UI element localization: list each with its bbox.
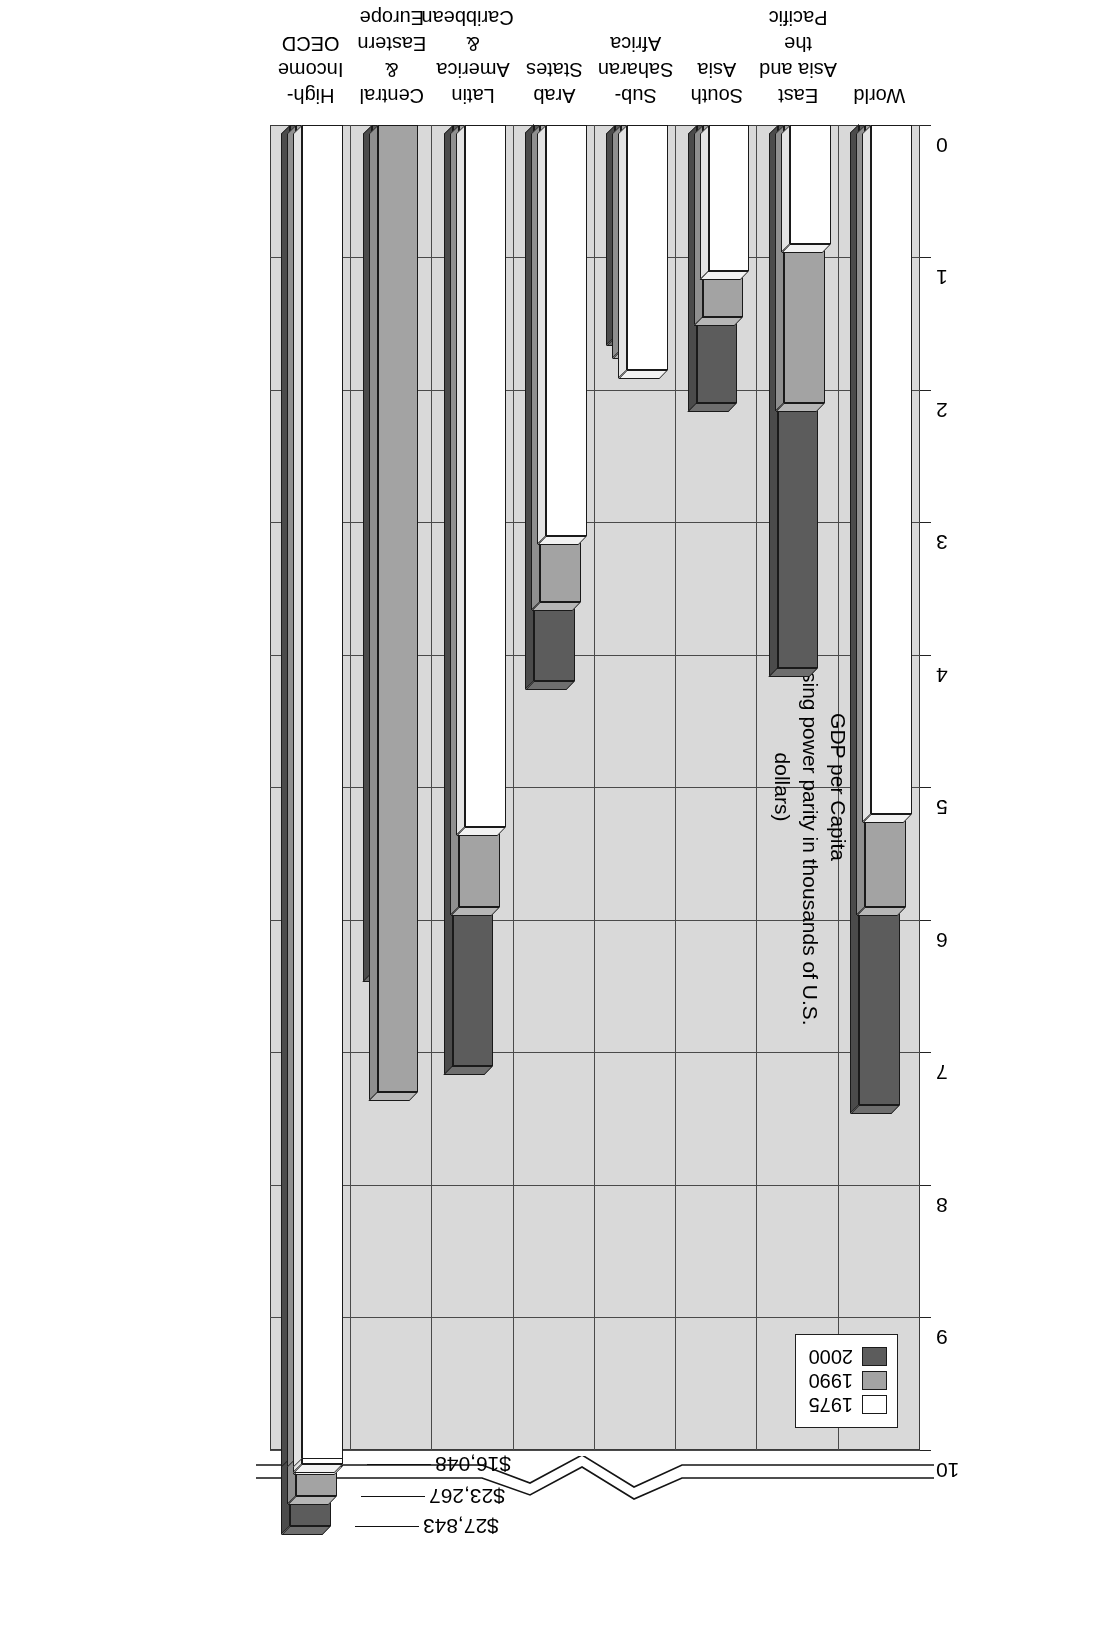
category-label: High-Income OECD xyxy=(270,31,351,109)
bar-top-cap xyxy=(444,1066,493,1075)
value-axis-tick xyxy=(920,788,931,789)
value-axis-tick-label: 4 xyxy=(936,666,948,687)
value-axis-tick xyxy=(920,655,931,656)
bar-face xyxy=(378,125,419,1092)
value-axis-tick-label: 3 xyxy=(936,533,948,554)
value-axis-tick-label: 6 xyxy=(936,931,948,952)
bar-top-cap xyxy=(775,403,824,412)
value-axis-tick-label: 10 xyxy=(936,1461,959,1482)
legend-swatch-1990 xyxy=(862,1372,887,1391)
value-axis-tick xyxy=(920,1053,931,1054)
bar-side-cap xyxy=(294,125,303,1475)
bar-side-cap xyxy=(781,125,790,253)
category-label: World xyxy=(839,83,920,109)
callout-leader-line xyxy=(355,1526,419,1527)
bar-top-cap xyxy=(619,370,668,379)
value-axis-tick-label: 2 xyxy=(936,401,948,422)
value-axis-tick-label: 1 xyxy=(936,268,948,289)
bar-1975 xyxy=(546,125,587,536)
bar-side-cap xyxy=(369,125,378,1101)
category-label: Arab States xyxy=(514,57,595,109)
legend-label: 1990 xyxy=(809,1371,854,1391)
value-axis-tick xyxy=(920,1450,931,1451)
bar-side-cap xyxy=(537,125,546,544)
bar-top-cap xyxy=(850,1106,899,1115)
value-callout-label: $27,843 xyxy=(423,1516,527,1537)
value-axis-tick xyxy=(920,523,931,524)
legend: 197519902000 xyxy=(796,1334,899,1428)
bar-1975 xyxy=(628,125,669,370)
value-axis-tick xyxy=(920,258,931,259)
bar-1975 xyxy=(790,125,831,244)
value-axis-tick-label: 7 xyxy=(936,1063,948,1084)
value-axis-tick-label: 8 xyxy=(936,1196,948,1217)
legend-swatch-1975 xyxy=(862,1396,887,1415)
legend-label: 1975 xyxy=(809,1395,854,1415)
bar-1975-above-break xyxy=(303,1458,344,1464)
callout-leader-line xyxy=(367,1464,431,1465)
bar-group xyxy=(839,125,920,1450)
bar-top-cap xyxy=(525,682,574,691)
legend-label: 2000 xyxy=(809,1347,854,1367)
value-callout-label: $16,048 xyxy=(435,1454,539,1475)
legend-item: 2000 xyxy=(809,1347,888,1367)
bar-side-cap xyxy=(619,125,628,379)
value-axis-tick xyxy=(920,125,931,126)
bar-top-cap xyxy=(863,814,912,823)
bar-1975 xyxy=(465,125,506,827)
figure-rotated-wrapper: 012345678910 WorldEast Asia and the Paci… xyxy=(0,0,1113,1644)
value-axis-tick-label: 0 xyxy=(936,136,948,157)
value-axis-tick-label: 5 xyxy=(936,798,948,819)
bar-top-cap xyxy=(856,907,905,916)
bar-top-cap xyxy=(369,1092,418,1101)
bar-face xyxy=(790,125,831,244)
bar-1975 xyxy=(709,125,750,271)
bar-face xyxy=(546,125,587,536)
bar-1975 xyxy=(871,125,912,814)
value-axis-tick xyxy=(920,920,931,921)
bar-side-cap xyxy=(456,125,465,836)
bar-top-cap xyxy=(456,827,505,836)
legend-swatch-2000 xyxy=(862,1348,887,1367)
category-label: South Asia xyxy=(676,57,757,109)
bar-side-cap xyxy=(700,125,709,279)
value-axis-tick xyxy=(920,1318,931,1319)
value-axis-tick-label: 9 xyxy=(936,1328,948,1349)
bar-group xyxy=(351,125,432,1450)
category-label: Sub-Saharan Africa xyxy=(595,31,676,109)
legend-item: 1975 xyxy=(809,1395,888,1415)
legend-item: 1990 xyxy=(809,1371,888,1391)
bar-group xyxy=(270,125,351,1450)
bar-top-cap xyxy=(781,244,830,253)
value-axis-title-line1: GDP per Capita xyxy=(824,528,852,1048)
bar-group xyxy=(514,125,595,1450)
bar-group xyxy=(433,125,514,1450)
bar-1975 xyxy=(303,125,344,1466)
bar-face xyxy=(303,125,344,1466)
category-label: Central & Eastern Europe & CIS xyxy=(351,0,432,109)
bar-top-cap xyxy=(688,403,737,412)
bar-group xyxy=(676,125,757,1450)
axis-break-zigzag xyxy=(256,1456,934,1502)
bar-top-cap xyxy=(450,907,499,916)
value-callout-label: $23,267 xyxy=(429,1486,533,1507)
gridline xyxy=(270,1450,920,1451)
category-label: Latin America & Caribbean xyxy=(433,5,514,109)
bar-face xyxy=(709,125,750,271)
bar-face xyxy=(628,125,669,370)
bar-side-cap xyxy=(862,125,871,823)
callout-leader-line xyxy=(361,1496,425,1497)
bar-top-cap xyxy=(531,602,580,611)
bar-group xyxy=(595,125,676,1450)
value-axis-tick xyxy=(920,1185,931,1186)
bar-face xyxy=(871,125,912,814)
bar-top-cap xyxy=(282,1526,331,1535)
bar-chart: 012345678910 WorldEast Asia and the Paci… xyxy=(270,125,920,1450)
bar-1990 xyxy=(378,125,419,1092)
category-label: East Asia and the Pacific xyxy=(758,5,839,109)
value-axis-tick xyxy=(920,390,931,391)
bar-top-cap xyxy=(538,536,587,545)
bar-face xyxy=(465,125,506,827)
